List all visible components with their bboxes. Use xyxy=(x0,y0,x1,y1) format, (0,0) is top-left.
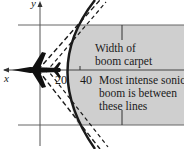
aircraft-icon xyxy=(12,52,61,88)
note-line: Most intense sonic xyxy=(99,74,184,87)
y-axis-label: y xyxy=(31,0,36,9)
note-line: these lines xyxy=(99,100,184,113)
x-axis-label: x xyxy=(4,73,9,84)
note-line: boom is between xyxy=(99,87,184,100)
tick-label-40: 40 xyxy=(80,74,92,86)
note-line: boom carpet xyxy=(95,55,152,68)
intense-boom-note: Most intense sonic boom is between these… xyxy=(99,74,184,113)
tick-label-20: 20 xyxy=(55,74,67,86)
note-line: Width of xyxy=(95,42,152,55)
width-of-boom-carpet-note: Width of boom carpet xyxy=(95,42,152,68)
sonic-boom-diagram: y x 20 40 Width of boom carpet Most inte… xyxy=(0,0,184,149)
y-axis-arrow-icon xyxy=(38,1,43,7)
